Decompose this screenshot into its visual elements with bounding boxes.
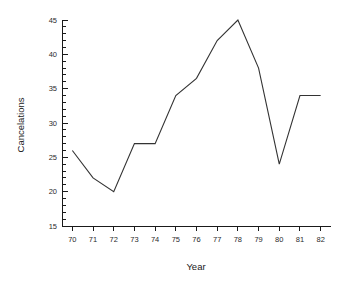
x-tick-label: 74	[151, 235, 159, 244]
y-tick-label: 40	[49, 50, 57, 59]
x-tick-label: 80	[275, 235, 283, 244]
y-tick-label: 30	[49, 119, 57, 128]
y-tick-label: 15	[49, 222, 57, 231]
data-series-group	[72, 20, 320, 192]
y-tick-label: 45	[49, 16, 57, 25]
y-axis-title: Cancelations	[15, 97, 26, 152]
x-tick-label: 70	[68, 235, 76, 244]
x-tick-label: 77	[213, 235, 221, 244]
chart-canvas: 15202530354045 7071727374757677787980818…	[0, 0, 344, 283]
x-tick-label: 81	[296, 235, 304, 244]
data-line	[72, 20, 320, 192]
x-tick-label: 82	[316, 235, 324, 244]
x-axis: 70717273747576777879808182	[62, 226, 331, 244]
x-tick-label: 72	[110, 235, 118, 244]
y-tick-label: 25	[49, 153, 57, 162]
x-axis-title: Year	[186, 261, 205, 272]
y-tick-label: 20	[49, 187, 57, 196]
x-tick-label: 73	[130, 235, 138, 244]
x-tick-label: 71	[89, 235, 97, 244]
y-tick-label: 35	[49, 84, 57, 93]
line-chart: 15202530354045 7071727374757677787980818…	[0, 0, 344, 283]
y-axis: 15202530354045	[49, 16, 68, 231]
x-tick-label: 78	[234, 235, 242, 244]
x-tick-label: 79	[254, 235, 262, 244]
x-tick-label: 75	[172, 235, 180, 244]
x-tick-label: 76	[192, 235, 200, 244]
